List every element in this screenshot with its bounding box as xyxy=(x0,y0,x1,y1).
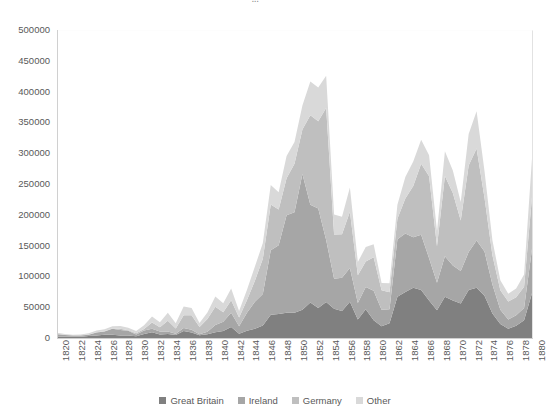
y-tick-label: 500000 xyxy=(0,25,50,35)
y-tick-label: 100000 xyxy=(0,271,50,281)
legend-swatch-icon xyxy=(292,397,299,404)
plot-area xyxy=(57,30,533,338)
x-axis-tick-labels: 1820182218241826182818301832183418361838… xyxy=(57,340,533,386)
y-tick-label: 450000 xyxy=(0,56,50,66)
x-tick-label: 1866 xyxy=(426,340,436,361)
legend-swatch-icon xyxy=(356,397,363,404)
legend-swatch-icon xyxy=(238,397,245,404)
legend-item-other[interactable]: Other xyxy=(356,395,391,406)
y-tick-label: 250000 xyxy=(0,179,50,189)
y-tick-label: 50000 xyxy=(0,302,50,312)
x-tick-label: 1820 xyxy=(61,340,71,361)
x-tick-label: 1860 xyxy=(378,340,388,361)
x-tick-label: 1842 xyxy=(236,340,246,361)
y-tick-label: 400000 xyxy=(0,87,50,97)
legend-swatch-icon xyxy=(159,397,166,404)
x-axis-line xyxy=(57,338,533,339)
x-tick-label: 1868 xyxy=(442,340,452,361)
x-tick-label: 1822 xyxy=(77,340,87,361)
x-tick-label: 1870 xyxy=(458,340,468,361)
x-tick-label: 1832 xyxy=(156,340,166,361)
y-axis-tick-labels: 5000004500004000003500003000002500002000… xyxy=(0,30,50,338)
x-tick-label: 1878 xyxy=(521,340,531,361)
stacked-area-chart: ... 500000450000400000350000300000250000… xyxy=(0,0,550,420)
y-tick-label: 0 xyxy=(0,333,50,343)
x-tick-label: 1850 xyxy=(299,340,309,361)
y-tick-label: 350000 xyxy=(0,117,50,127)
chart-legend: Great BritainIrelandGermanyOther xyxy=(0,392,550,408)
legend-label: Ireland xyxy=(249,395,278,406)
x-tick-label: 1844 xyxy=(251,340,261,361)
x-tick-label: 1834 xyxy=(172,340,182,361)
chart-title-cropped: ... xyxy=(246,0,264,2)
x-tick-label: 1852 xyxy=(315,340,325,361)
x-tick-label: 1856 xyxy=(347,340,357,361)
x-tick-label: 1864 xyxy=(410,340,420,361)
x-tick-label: 1854 xyxy=(331,340,341,361)
x-tick-label: 1862 xyxy=(394,340,404,361)
y-tick-label: 200000 xyxy=(0,210,50,220)
x-tick-label: 1838 xyxy=(204,340,214,361)
x-tick-label: 1846 xyxy=(267,340,277,361)
x-tick-label: 1874 xyxy=(489,340,499,361)
y-tick-label: 150000 xyxy=(0,241,50,251)
x-tick-label: 1828 xyxy=(124,340,134,361)
y-axis-line xyxy=(57,30,58,339)
plot-svg xyxy=(57,31,532,338)
x-tick-label: 1858 xyxy=(362,340,372,361)
x-tick-label: 1836 xyxy=(188,340,198,361)
x-tick-label: 1876 xyxy=(505,340,515,361)
x-tick-label: 1840 xyxy=(220,340,230,361)
x-tick-label: 1826 xyxy=(109,340,119,361)
x-tick-label: 1872 xyxy=(474,340,484,361)
legend-item-ireland[interactable]: Ireland xyxy=(238,395,278,406)
x-tick-label: 1830 xyxy=(140,340,150,361)
x-tick-label: 1880 xyxy=(537,340,547,361)
x-tick-label: 1824 xyxy=(93,340,103,361)
legend-label: Great Britain xyxy=(170,395,223,406)
legend-label: Other xyxy=(367,395,391,406)
legend-label: Germany xyxy=(303,395,342,406)
y-tick-label: 300000 xyxy=(0,148,50,158)
x-tick-label: 1848 xyxy=(283,340,293,361)
legend-item-germany[interactable]: Germany xyxy=(292,395,342,406)
legend-item-great-britain[interactable]: Great Britain xyxy=(159,395,223,406)
